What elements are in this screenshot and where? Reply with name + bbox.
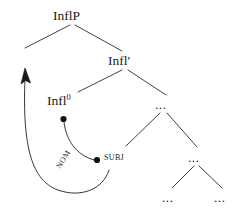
branch-dotsmid-right xyxy=(167,113,197,147)
branch-inflbar-right xyxy=(128,70,166,95)
node-label-dots-bottom-right: ... xyxy=(214,191,226,204)
node-label-infl-bar: Infl′ xyxy=(108,54,130,68)
node-label-dots-right: ... xyxy=(188,151,200,164)
branch-dotsmid-left xyxy=(126,113,160,146)
branch-inflbar-left xyxy=(78,70,122,92)
syntax-tree-figure: InflP Infl′ Infl0 ... SUBJ ... ... ... N… xyxy=(0,0,241,208)
branch-dotsright-left xyxy=(172,166,194,188)
branch-inflp-left xyxy=(25,25,70,48)
node-label-subj: SUBJ xyxy=(104,154,124,162)
node-label-inflp: InflP xyxy=(53,9,80,23)
node-label-dots-bottom-left: ... xyxy=(162,191,174,204)
node-label-infl-head: Infl0 xyxy=(47,94,71,108)
raising-arc-arrowhead xyxy=(21,68,31,84)
infl0-anchor-dot xyxy=(60,116,66,122)
tree-lines-svg xyxy=(0,0,241,208)
branch-dotsright-right xyxy=(199,166,222,188)
branch-inflp-right xyxy=(75,25,122,51)
infl-head-superscript: 0 xyxy=(67,92,71,102)
subj-anchor-dot xyxy=(94,157,100,163)
infl-head-base: Infl xyxy=(47,93,67,108)
node-label-dots-mid: ... xyxy=(155,98,167,111)
